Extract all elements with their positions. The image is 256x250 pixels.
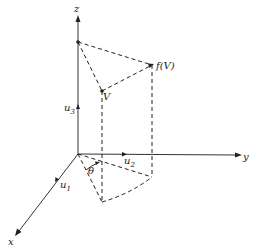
theta-label: θ (88, 165, 94, 176)
fv-arrowhead (148, 64, 154, 69)
dashed-origin-to-v-proj (78, 154, 102, 202)
fv-label: f(V) (155, 60, 175, 71)
u3-label: u3 (64, 102, 75, 116)
u2-label: u2 (124, 155, 135, 169)
dashed-z-to-v (78, 42, 102, 91)
z-axis-label: z (73, 3, 80, 14)
x-axis-label: x (8, 236, 14, 247)
v-label: V (103, 91, 112, 102)
rotation-diagram: z y x u3 u2 u1 V f(V) θ (0, 0, 256, 250)
dashed-z-to-fv (78, 42, 152, 65)
y-axis-arrowhead (235, 153, 242, 158)
u1-label: u1 (60, 179, 71, 193)
u3-marker (76, 104, 80, 109)
z-axis-arrowhead (76, 15, 81, 22)
z-point (76, 40, 80, 44)
dashed-v-to-fv (102, 65, 152, 91)
dashed-arc-v-to-fv (102, 177, 152, 202)
theta-arrowhead (95, 162, 100, 166)
y-axis-label: y (242, 151, 249, 162)
